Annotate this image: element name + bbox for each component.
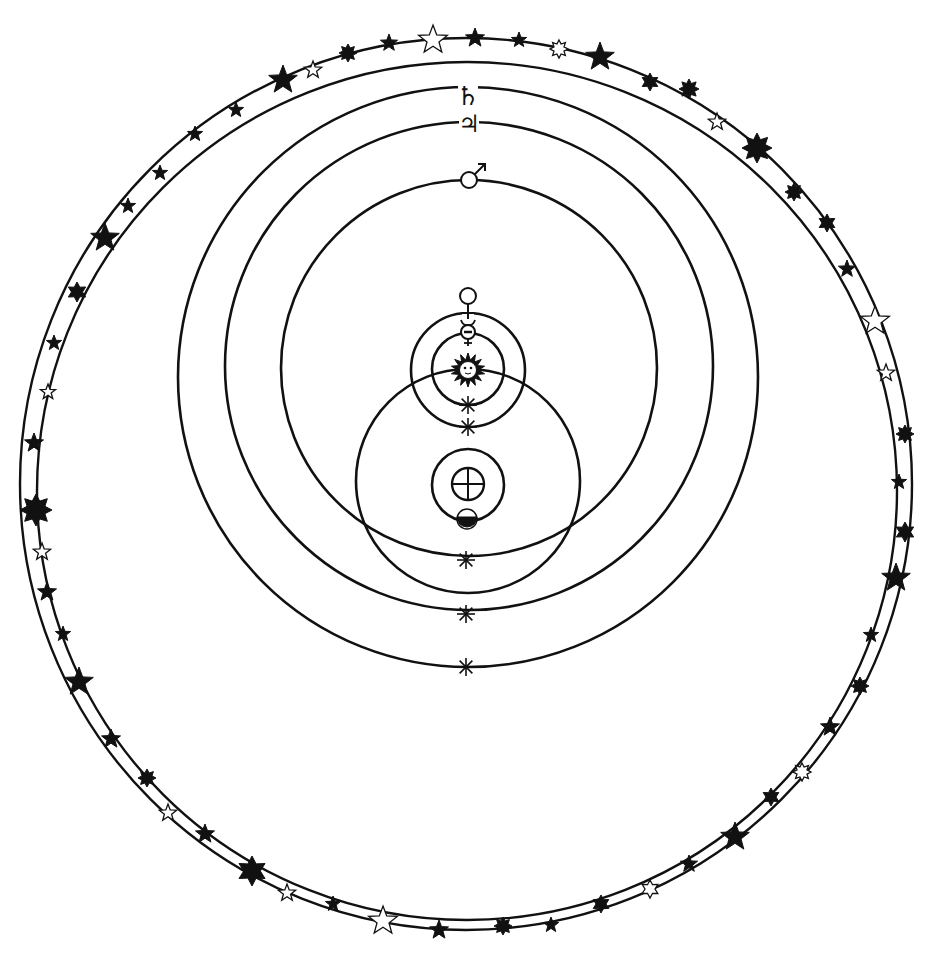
filled-star-icon	[494, 917, 512, 935]
orbit-markers	[457, 396, 477, 676]
filled-star-icon	[430, 920, 449, 938]
asterisk-marker-icon	[459, 418, 477, 436]
jupiter-symbol-icon: ♃	[458, 110, 480, 138]
open-star-icon	[419, 25, 448, 52]
filled-star-icon	[721, 822, 750, 849]
open-star-icon	[278, 884, 295, 900]
filled-star-icon	[269, 65, 298, 92]
open-star-icon	[793, 763, 811, 781]
filled-star-icon	[679, 79, 699, 99]
open-star-icon	[877, 364, 894, 380]
filled-star-icon	[680, 855, 697, 871]
celestial-bodies: ♄♃	[451, 81, 485, 529]
filled-star-icon	[20, 494, 52, 526]
filled-star-icon	[742, 133, 772, 163]
saturn-symbol-icon: ♄	[456, 81, 479, 111]
filled-star-icon	[152, 165, 167, 180]
filled-star-icon	[891, 474, 906, 489]
filled-star-icon	[138, 769, 156, 787]
venus-symbol-icon	[460, 288, 476, 319]
filled-star-icon	[187, 126, 202, 141]
tychonic-system-diagram: ♄♃	[0, 0, 934, 957]
filled-star-icon	[38, 582, 57, 600]
open-star-icon	[550, 40, 568, 58]
asterisk-marker-icon	[457, 605, 475, 623]
earth-icon	[452, 468, 484, 500]
filled-star-icon	[380, 34, 397, 50]
filled-star-icon	[586, 42, 615, 69]
filled-star-icon	[851, 677, 869, 695]
filled-star-icon	[785, 183, 803, 201]
asterisk-marker-icon	[457, 551, 475, 569]
moon-icon	[457, 509, 477, 529]
filled-star-icon	[339, 44, 357, 62]
filled-star-icon	[543, 917, 558, 932]
mars-symbol-icon	[461, 164, 485, 188]
mercury-symbol-icon	[461, 320, 475, 346]
filled-star-icon	[46, 335, 61, 350]
asterisk-marker-icon	[457, 658, 475, 676]
filled-star-icon	[65, 667, 94, 694]
filled-star-icon	[896, 425, 914, 443]
open-star-icon	[708, 113, 725, 129]
filled-star-icon	[511, 32, 526, 47]
filled-star-icon	[466, 28, 485, 46]
asterisk-marker-icon	[459, 396, 477, 414]
